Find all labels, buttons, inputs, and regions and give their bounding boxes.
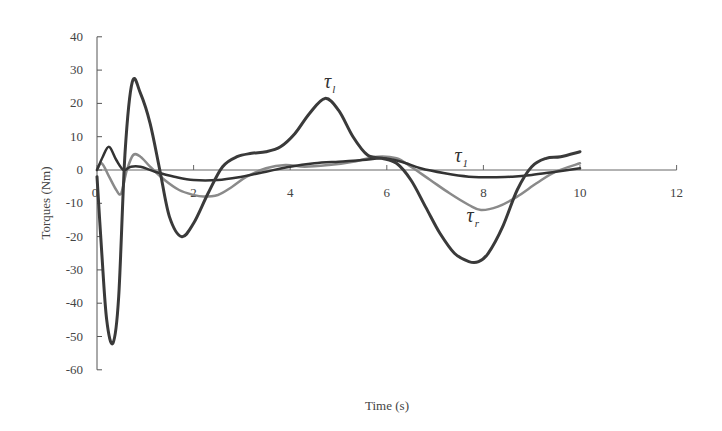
y-tick-label: 40 bbox=[70, 29, 83, 44]
y-tick-label: 10 bbox=[70, 129, 83, 144]
y-axis: 403020100-10-20-30-40-50-60 bbox=[66, 29, 102, 377]
series-layer bbox=[97, 78, 580, 343]
y-tick-label: -60 bbox=[66, 362, 83, 377]
y-axis-title: Torques (Nm) bbox=[38, 166, 53, 239]
label-tau-r: τr bbox=[466, 204, 479, 229]
y-tick-label: 30 bbox=[70, 62, 83, 77]
x-axis: 024681012 bbox=[92, 165, 683, 200]
series-line-tau-l bbox=[97, 78, 580, 343]
y-tick-label: 20 bbox=[70, 95, 83, 110]
x-tick-label: 6 bbox=[384, 185, 391, 200]
x-tick-label: 12 bbox=[670, 185, 683, 200]
y-tick-label: -30 bbox=[66, 262, 83, 277]
y-tick-label: -20 bbox=[66, 229, 83, 244]
torque-line-chart: 403020100-10-20-30-40-50-60 024681012 τl… bbox=[0, 0, 722, 431]
y-tick-label: -50 bbox=[66, 329, 83, 344]
curve-labels: τlτ1τr bbox=[324, 70, 480, 228]
x-tick-label: 2 bbox=[190, 185, 197, 200]
x-tick-label: 8 bbox=[480, 185, 487, 200]
label-tau-l: τl bbox=[324, 70, 335, 95]
y-tick-label: 0 bbox=[77, 162, 84, 177]
y-tick-label: -40 bbox=[66, 295, 83, 310]
label-tau-1: τ1 bbox=[454, 144, 468, 169]
y-tick-label: -10 bbox=[66, 195, 83, 210]
x-tick-label: 4 bbox=[287, 185, 294, 200]
x-axis-title: Time (s) bbox=[365, 398, 409, 413]
x-tick-label: 10 bbox=[574, 185, 587, 200]
